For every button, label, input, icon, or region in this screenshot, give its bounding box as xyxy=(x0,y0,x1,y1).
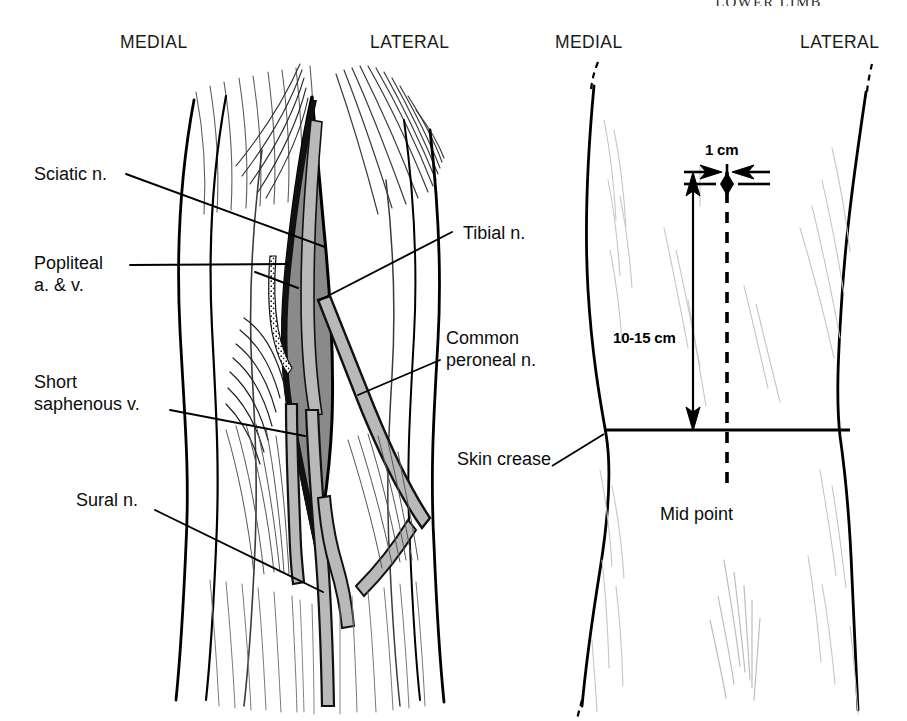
dissection-figure xyxy=(176,64,444,714)
figure-page: LOWER LIMB MEDIAL LATERAL MEDIAL LATERAL xyxy=(0,0,907,721)
measurement-1-cm: 1 cm xyxy=(705,141,738,158)
leader-popliteal-av xyxy=(130,264,288,265)
surface-lateral-contour xyxy=(838,92,866,710)
label-tibial-n: Tibial n. xyxy=(463,222,525,244)
surface-figure xyxy=(552,62,872,720)
label-sciatic-n: Sciatic n. xyxy=(34,163,107,185)
surface-medial-contour xyxy=(582,86,609,706)
label-sural-n: Sural n. xyxy=(76,489,138,511)
surface-skin-texture xyxy=(592,120,858,714)
surface-lateral-contour-dash xyxy=(867,64,872,92)
measurement-10-15-cm: 10-15 cm xyxy=(613,329,676,346)
leader-tibial xyxy=(320,232,452,300)
thigh-muscle-hatching-lateral xyxy=(336,66,444,214)
calf-hatching-lateral xyxy=(348,434,418,568)
leader-skin-crease xyxy=(552,434,604,466)
leader-common-peroneal xyxy=(358,360,440,395)
distance-arrow-horizontal xyxy=(684,164,770,200)
surface-calf-texture xyxy=(710,560,760,700)
label-mid-point: Mid point xyxy=(660,503,733,525)
calf-hatching-medial xyxy=(226,424,289,574)
label-skin-crease: Skin crease xyxy=(457,448,551,470)
common-peroneal-nerve xyxy=(318,296,430,528)
label-short-saphenous-v: Short saphenous v. xyxy=(34,371,140,415)
surface-medial-contour-dash-lower xyxy=(577,700,582,720)
label-popliteal-a-v: Popliteal a. & v. xyxy=(34,252,103,296)
label-common-peroneal-n: Common peroneal n. xyxy=(446,327,536,371)
